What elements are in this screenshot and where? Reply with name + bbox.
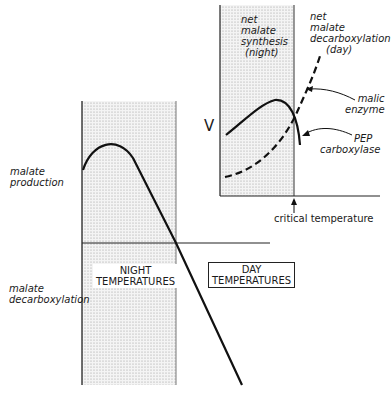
night-temperatures-label: NIGHT TEMPERATURES [93, 264, 178, 288]
net-malate-decarboxylation-label: net malate decarboxylation (day) [310, 11, 391, 55]
net-malate-synthesis-label: net malate synthesis (night) [241, 14, 288, 58]
arrowhead-icon [302, 130, 310, 136]
day-temperatures-label: DAY TEMPERATURES [208, 262, 295, 288]
malate-production-label: malate production [10, 166, 64, 188]
malic-enzyme-label: malic enzyme [345, 93, 385, 115]
critical-temperature-label: critical temperature [274, 213, 374, 224]
arrow-up-icon [291, 198, 297, 205]
pep-carboxylase-label: PEP carboxylase [320, 133, 380, 155]
malate-decarboxylation-label: malate decarboxylation [9, 283, 90, 305]
inset-y-axis-label: V [204, 118, 214, 134]
